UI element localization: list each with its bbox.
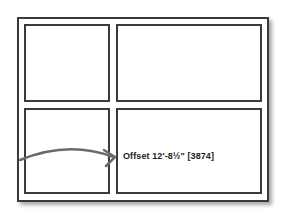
curved-arrow-icon — [0, 0, 284, 213]
offset-label: Offset 12'-8½" [3874] — [123, 151, 214, 161]
